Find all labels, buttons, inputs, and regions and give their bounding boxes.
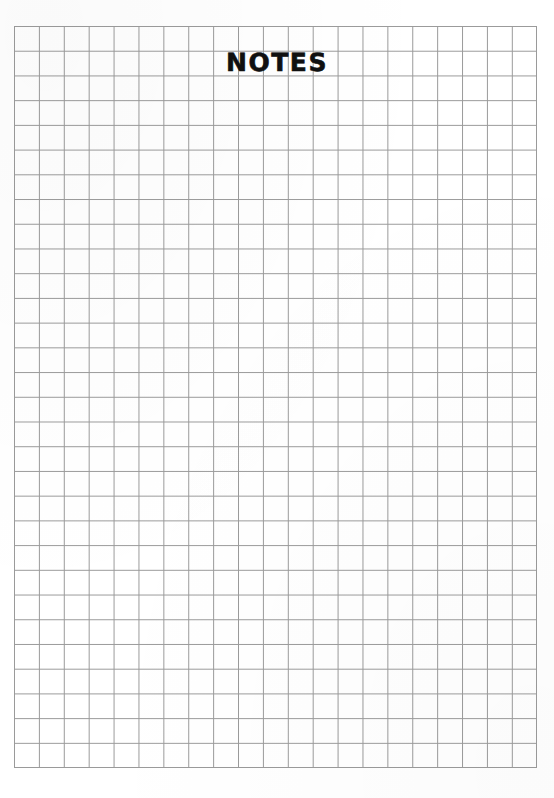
notes-page: NOTES	[0, 0, 554, 798]
grid-paper-area	[14, 26, 537, 768]
page-header	[0, 0, 554, 9]
